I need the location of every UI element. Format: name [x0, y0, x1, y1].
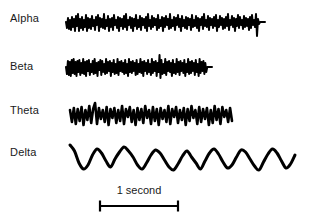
waveform-trace-theta [70, 103, 232, 125]
scale-bar-caption: 1 second [100, 185, 178, 196]
waveform-trace-beta [66, 55, 212, 78]
waveform-trace-delta [70, 145, 295, 170]
waveform-trace-alpha [66, 14, 265, 36]
eeg-waveform-figure: Alpha Beta Theta Delta 1 second [0, 0, 309, 222]
scale-bar [100, 201, 178, 212]
